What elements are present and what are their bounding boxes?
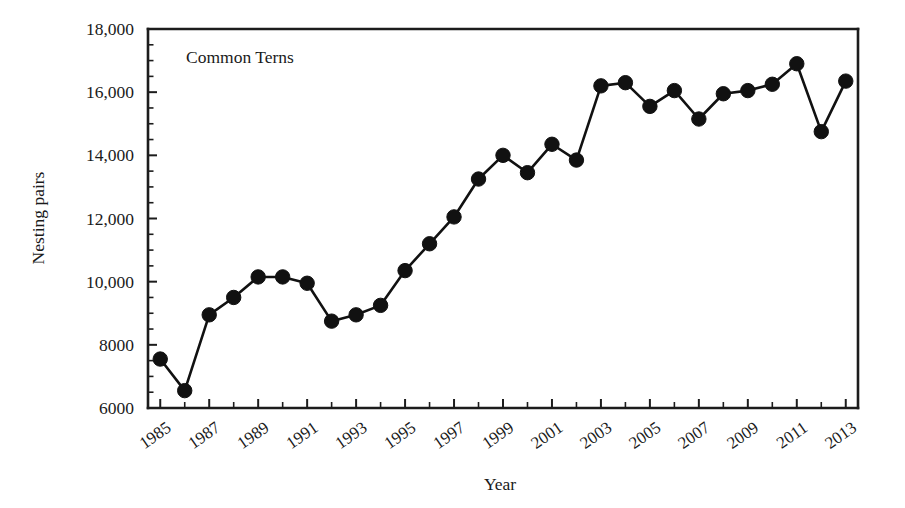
data-point-marker: 2002: 13850 <box>569 153 583 167</box>
data-point-marker: 2008: 15950 <box>716 87 730 101</box>
data-point-marker: 1985: 7550 <box>153 352 167 366</box>
data-point-marker: 1987: 8950 <box>202 308 216 322</box>
y-tick-label: 12,000 <box>86 209 134 229</box>
data-point-marker: 1998: 13250 <box>471 172 485 186</box>
data-point-marker: 1991: 9950 <box>300 276 314 290</box>
y-tick-label: 14,000 <box>86 145 134 165</box>
y-axis-title-text: Nesting pairs <box>28 171 48 264</box>
data-point-marker: 2010: 16250 <box>765 77 779 91</box>
data-point-marker: 2012: 14750 <box>814 124 828 138</box>
data-point-marker: 1997: 12050 <box>447 210 461 224</box>
data-point-marker: 1990: 10150 <box>275 270 289 284</box>
y-tick-label: 6000 <box>99 398 134 418</box>
data-point-marker: 2000: 13450 <box>520 166 534 180</box>
x-axis-title-text: Year <box>484 474 516 494</box>
chart-figure: Nesting pairs 6000800010,00012,00014,000… <box>0 0 905 508</box>
data-point-marker: 1989: 10150 <box>251 270 265 284</box>
data-point-marker: 1988: 9500 <box>226 290 240 304</box>
y-tick-label: 8000 <box>99 335 134 355</box>
y-tick-label: 10,000 <box>86 272 134 292</box>
data-point-marker: 1999: 14000 <box>496 148 510 162</box>
data-point-marker: 1993: 8950 <box>349 308 363 322</box>
y-tick-label: 16,000 <box>86 82 134 102</box>
line-chart-common-terns: Nesting pairs 6000800010,00012,00014,000… <box>0 0 905 508</box>
data-point-marker: 2009: 16050 <box>741 83 755 97</box>
chart-annotation-label: Common Terns <box>186 47 294 67</box>
data-point-marker: 1986: 6550 <box>178 383 192 397</box>
y-tick-label: 18,000 <box>86 19 134 39</box>
data-point-marker: 2011: 16900 <box>790 57 804 71</box>
data-point-marker: 1992: 8750 <box>324 314 338 328</box>
data-point-marker: 1994: 9250 <box>373 298 387 312</box>
data-point-marker: 2006: 16050 <box>667 83 681 97</box>
data-point-marker: 1995: 10350 <box>398 263 412 277</box>
data-point-marker: 2005: 15550 <box>643 99 657 113</box>
data-point-marker: 2003: 16200 <box>594 79 608 93</box>
data-point-marker: 2001: 14350 <box>545 137 559 151</box>
data-point-marker: 2007: 15150 <box>692 112 706 126</box>
data-point-marker: 1996: 11200 <box>422 237 436 251</box>
data-point-marker: 2013: 16350 <box>839 74 853 88</box>
y-axis-title: Nesting pairs <box>28 171 48 264</box>
data-point-marker: 2004: 16300 <box>618 75 632 89</box>
